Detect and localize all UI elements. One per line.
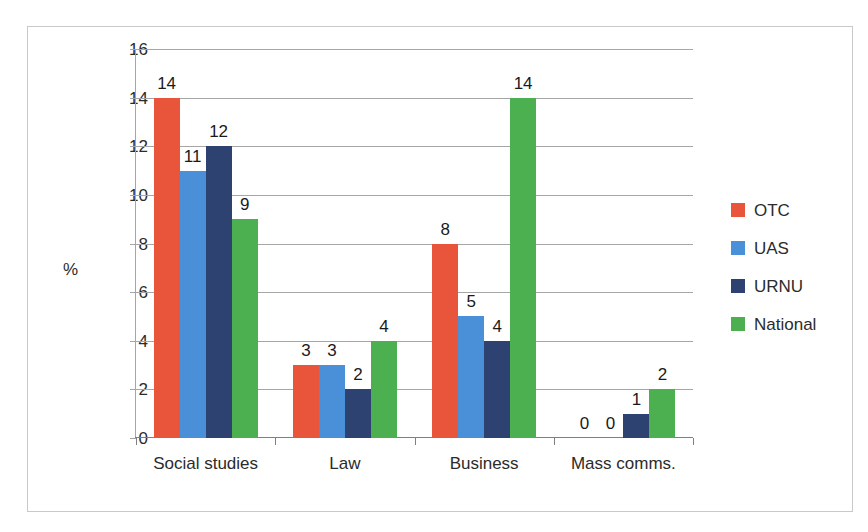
legend-label: OTC (754, 202, 790, 219)
bar-value-label: 9 (232, 196, 258, 213)
bar[interactable] (154, 98, 180, 438)
bar-value-label: 0 (571, 415, 597, 432)
bar-value-label: 11 (180, 148, 206, 165)
bar-value-label: 0 (597, 415, 623, 432)
bar-value-label: 3 (319, 342, 345, 359)
legend-item[interactable]: OTC (731, 191, 816, 229)
x-axis-tick (554, 438, 555, 445)
legend-color-swatch (731, 279, 745, 293)
y-axis-tick (130, 341, 136, 342)
y-axis-tick (130, 389, 136, 390)
bar-value-label: 14 (154, 75, 180, 92)
legend-item[interactable]: URNU (731, 267, 816, 305)
bar-value-label: 2 (345, 366, 371, 383)
y-axis-title: % (63, 261, 78, 278)
x-axis-category-labels: Social studiesLawBusinessMass comms. (136, 455, 693, 481)
x-axis-tick (136, 438, 137, 445)
chart-legend: OTCUASURNUNational (731, 191, 816, 343)
bar[interactable] (345, 389, 371, 438)
bar[interactable] (432, 244, 458, 439)
y-axis-tick (130, 244, 136, 245)
y-axis-tick (130, 98, 136, 99)
bar[interactable] (510, 98, 536, 438)
bar[interactable] (623, 414, 649, 438)
y-axis-tick (130, 146, 136, 147)
y-axis-tick (130, 292, 136, 293)
x-axis-category-label: Law (275, 455, 414, 472)
chart-container: % 0246810121416 14380113501224194142 Soc… (27, 26, 853, 512)
legend-label: URNU (754, 278, 803, 295)
bar[interactable] (371, 341, 397, 438)
x-axis-tick (693, 438, 694, 445)
bar-value-label: 5 (458, 293, 484, 310)
legend-color-swatch (731, 203, 745, 217)
bar-value-label: 4 (371, 318, 397, 335)
bar-value-label: 12 (206, 123, 232, 140)
x-axis-category-label: Business (415, 455, 554, 472)
x-axis-tick (275, 438, 276, 445)
bar[interactable] (232, 219, 258, 438)
bar[interactable] (484, 341, 510, 438)
bar-value-label: 14 (510, 75, 536, 92)
x-axis-category-label: Social studies (136, 455, 275, 472)
bar[interactable] (206, 146, 232, 438)
x-axis-tick (415, 438, 416, 445)
x-axis-category-label: Mass comms. (554, 455, 693, 472)
bar[interactable] (180, 171, 206, 438)
legend-label: National (754, 316, 816, 333)
bar-value-label: 3 (293, 342, 319, 359)
legend-color-swatch (731, 241, 745, 255)
gridline (136, 98, 693, 99)
bar[interactable] (649, 389, 675, 438)
bar[interactable] (319, 365, 345, 438)
bar-value-label: 1 (623, 391, 649, 408)
legend-color-swatch (731, 317, 745, 331)
bar-value-label: 4 (484, 318, 510, 335)
plot-area: 14380113501224194142 (136, 49, 693, 438)
bar[interactable] (458, 316, 484, 438)
legend-item[interactable]: National (731, 305, 816, 343)
y-axis-tick (130, 195, 136, 196)
bar-value-label: 2 (649, 366, 675, 383)
bar[interactable] (293, 365, 319, 438)
legend-item[interactable]: UAS (731, 229, 816, 267)
gridline (136, 49, 693, 50)
legend-label: UAS (754, 240, 789, 257)
bar-value-label: 8 (432, 221, 458, 238)
y-axis-tick (130, 49, 136, 50)
